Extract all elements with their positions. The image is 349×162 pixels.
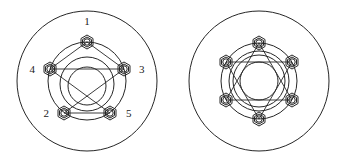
- bolt-label-4: 4: [30, 63, 36, 75]
- bolt-label-5: 5: [126, 107, 132, 119]
- bolt-label-1: 1: [84, 15, 90, 27]
- bolt-label-2: 2: [44, 107, 50, 119]
- bolt-sequence-diagram: 1 3 5 2 4: [0, 0, 349, 162]
- bolt-label-3: 3: [139, 63, 145, 75]
